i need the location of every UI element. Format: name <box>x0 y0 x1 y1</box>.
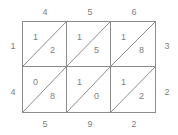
cell-tens-digit: 1 <box>121 78 126 87</box>
cell-tens-digit: 1 <box>121 33 126 42</box>
cell-tens-digit: 1 <box>77 78 82 87</box>
lattice-cell-r0c2: 1 8 <box>111 22 155 67</box>
lattice-cell-r1c1: 1 0 <box>67 67 111 112</box>
lattice-cell-r0c1: 1 5 <box>67 22 111 67</box>
lattice-grid: 1 2 1 5 1 8 0 8 <box>22 21 156 113</box>
cell-ones-digit: 0 <box>94 92 99 101</box>
bottom-label-1: 9 <box>83 120 97 129</box>
cell-ones-digit: 2 <box>139 92 144 101</box>
cell-diagonal-icon <box>23 67 66 112</box>
cell-tens-digit: 1 <box>77 33 82 42</box>
top-label-2: 6 <box>127 8 141 17</box>
cell-diagonal-icon <box>67 22 110 66</box>
cell-ones-digit: 2 <box>50 46 55 55</box>
cell-tens-digit: 0 <box>33 78 38 87</box>
right-label-0: 3 <box>160 42 174 51</box>
lattice-multiplication-figure: 4 5 6 1 4 3 2 5 9 2 1 2 1 5 1 <box>0 0 178 135</box>
left-label-1: 4 <box>6 88 20 97</box>
cell-ones-digit: 5 <box>94 46 99 55</box>
cell-diagonal-icon <box>111 67 155 112</box>
top-label-1: 5 <box>83 8 97 17</box>
lattice-cell-r1c2: 1 2 <box>111 67 155 112</box>
cell-diagonal-icon <box>23 22 66 66</box>
right-label-1: 2 <box>160 88 174 97</box>
cell-tens-digit: 1 <box>33 33 38 42</box>
cell-diagonal-icon <box>111 22 155 66</box>
cell-ones-digit: 8 <box>139 46 144 55</box>
bottom-label-0: 5 <box>38 120 52 129</box>
top-label-0: 4 <box>38 8 52 17</box>
cell-diagonal-icon <box>67 67 110 112</box>
lattice-cell-r0c0: 1 2 <box>23 22 67 67</box>
bottom-label-2: 2 <box>127 120 141 129</box>
left-label-0: 1 <box>6 42 20 51</box>
lattice-cell-r1c0: 0 8 <box>23 67 67 112</box>
cell-ones-digit: 8 <box>50 92 55 101</box>
